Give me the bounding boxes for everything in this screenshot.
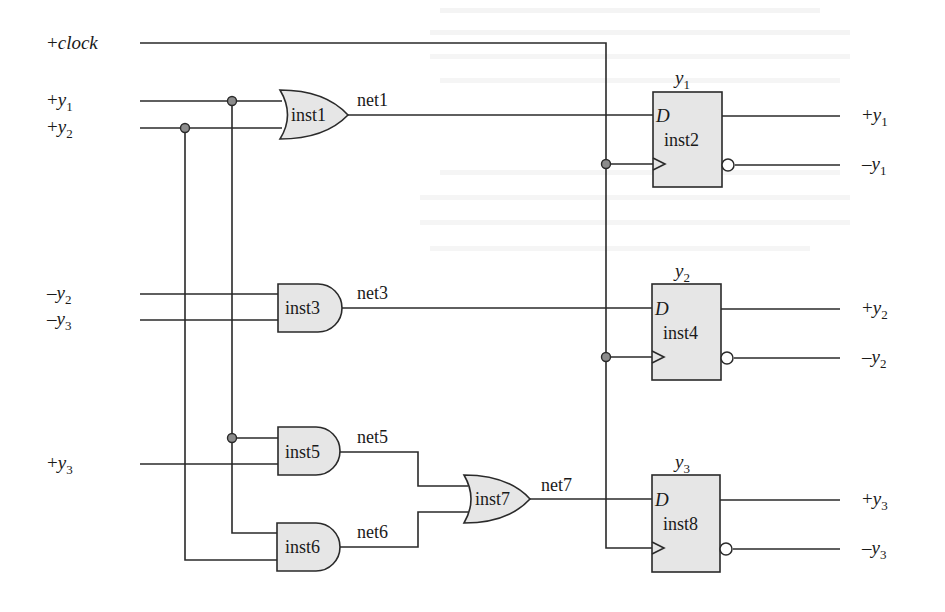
d-input-label: D <box>655 105 670 126</box>
output-label-plus-y3: +y3 <box>862 488 888 513</box>
gate-inst5-and[interactable]: inst5 <box>278 427 340 475</box>
output-label-minus-y2: –y2 <box>861 346 886 371</box>
input-label-plus-y2: +y2 <box>47 116 73 141</box>
circuit-diagram: +clock +y1 +y2 –y2 –y3 +y3 <box>0 0 945 612</box>
inverted-output-bubble <box>720 543 732 555</box>
net-label-net7: net7 <box>541 475 572 495</box>
output-label-plus-y1: +y1 <box>862 104 888 129</box>
d-input-label: D <box>654 489 669 510</box>
ff-label: inst2 <box>664 130 699 150</box>
gate-inst7-or[interactable]: inst7 <box>464 475 530 523</box>
d-input-label: D <box>654 298 669 319</box>
input-label-plus-y1: +y1 <box>47 89 73 114</box>
output-labels: +y1 –y1 +y2 –y2 +y3 –y3 <box>861 104 888 562</box>
ff-title: y2 <box>673 260 690 285</box>
wire-y1-bus <box>232 101 278 533</box>
flipflop-inst8[interactable]: y3 D inst8 <box>652 451 732 572</box>
junction-dot <box>228 434 237 443</box>
ff-title: y1 <box>673 67 690 92</box>
input-label-minus-y2: –y2 <box>46 282 71 307</box>
gate-label: inst1 <box>291 105 326 125</box>
gate-inst1-or[interactable]: inst1 <box>280 90 348 139</box>
net-label-net1: net1 <box>357 90 388 110</box>
wire-clock <box>140 43 653 548</box>
gate-label: inst7 <box>475 489 510 509</box>
wire-net5 <box>340 452 468 486</box>
output-label-minus-y3: –y3 <box>861 537 886 562</box>
ff-label: inst8 <box>663 514 698 534</box>
net-label-net3: net3 <box>357 283 388 303</box>
output-label-minus-y1: –y1 <box>861 153 886 178</box>
junction-dot <box>181 124 190 133</box>
input-labels: +clock +y1 +y2 –y2 –y3 +y3 <box>46 32 98 477</box>
gate-label: inst3 <box>285 298 320 318</box>
ff-title: y3 <box>673 451 690 476</box>
junction-dot <box>228 97 237 106</box>
junction-dot <box>602 160 611 169</box>
flipflop-inst2[interactable]: y1 D inst2 <box>653 67 734 187</box>
gate-inst3-and[interactable]: inst3 <box>278 284 342 332</box>
flipflop-inst4[interactable]: y2 D inst4 <box>652 260 733 380</box>
output-label-plus-y2: +y2 <box>862 297 888 322</box>
gate-label: inst5 <box>285 442 320 462</box>
inverted-output-bubble <box>721 352 733 364</box>
net-label-net5: net5 <box>357 427 388 447</box>
input-label-minus-y3: –y3 <box>46 308 71 333</box>
background-bleed-text <box>420 8 850 251</box>
junctions <box>181 97 611 443</box>
input-label-plus-y3: +y3 <box>47 452 73 477</box>
input-label-clock: +clock <box>47 32 98 53</box>
ff-label: inst4 <box>663 323 698 343</box>
gate-inst6-and[interactable]: inst6 <box>277 523 340 571</box>
net-label-net6: net6 <box>357 522 388 542</box>
junction-dot <box>602 353 611 362</box>
gate-label: inst6 <box>285 537 320 557</box>
inverted-output-bubble <box>722 159 734 171</box>
